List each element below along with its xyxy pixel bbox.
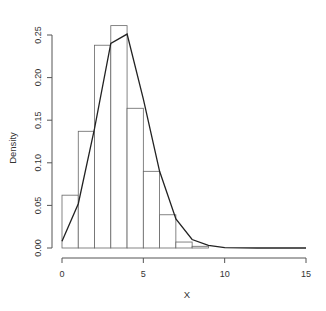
y-axis: 0.000.050.100.150.200.25 xyxy=(33,26,52,257)
y-axis-title: Density xyxy=(7,132,18,164)
x-axis-title: X xyxy=(184,289,191,300)
histogram-bar xyxy=(127,108,143,248)
x-axis: 051015 xyxy=(59,258,311,279)
y-tick-label: 0.20 xyxy=(33,69,43,87)
histogram-bar xyxy=(192,246,208,248)
x-tick-label: 10 xyxy=(220,269,230,279)
histogram-bar xyxy=(176,242,192,248)
x-tick-label: 5 xyxy=(141,269,146,279)
histogram-bar xyxy=(111,26,127,248)
histogram-bar xyxy=(143,171,159,248)
histogram-bar xyxy=(160,215,176,248)
y-tick-label: 0.25 xyxy=(33,26,43,44)
y-tick-label: 0.00 xyxy=(33,239,43,257)
x-tick-label: 15 xyxy=(301,269,311,279)
y-tick-label: 0.05 xyxy=(33,197,43,215)
histogram-bar xyxy=(95,45,111,248)
y-tick-label: 0.10 xyxy=(33,154,43,172)
x-tick-label: 0 xyxy=(59,269,64,279)
histogram-chart: 0.000.050.100.150.200.25 051015 X Densit… xyxy=(0,0,326,311)
histogram-bars xyxy=(62,26,208,248)
y-tick-label: 0.15 xyxy=(33,111,43,129)
